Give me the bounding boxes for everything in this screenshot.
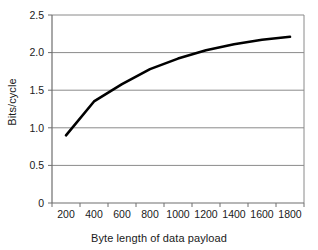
y-tick-label-1.0: 1.0 [14,122,44,134]
chart-container: 2.5 2.0 1.5 1.0 0.5 0 200 400 600 800 10… [0,0,318,250]
y-axis-title: Bits/cycle [6,57,18,147]
axis-lines [52,15,304,203]
y-tick-label-2.5: 2.5 [14,9,44,21]
gridlines [52,15,304,165]
y-tick-label-0.5: 0.5 [14,159,44,171]
data-series-line [66,37,290,136]
x-tick-label-1800: 1800 [270,208,310,220]
y-tick-label-2.0: 2.0 [14,46,44,58]
y-tick-label-0: 0 [14,197,44,209]
x-axis-ticks [52,203,304,207]
y-tick-label-1.5: 1.5 [14,84,44,96]
x-axis-title: Byte length of data payload [0,232,318,244]
